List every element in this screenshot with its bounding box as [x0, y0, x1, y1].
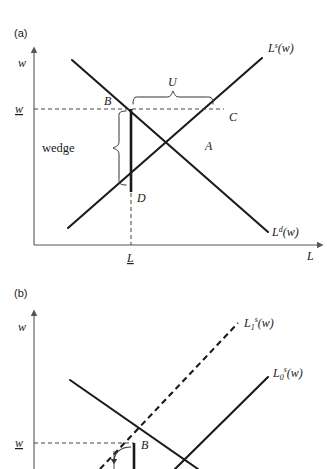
economics-labor-market-figure: (a)	[0, 0, 327, 469]
wage-floor-tick-label-b: w	[15, 436, 23, 450]
point-A-label-a: A	[204, 139, 213, 153]
panel-b: (b)	[0, 265, 327, 469]
point-B-label-a: B	[104, 94, 112, 108]
panel-a-plot: Ls(w) Ld(w) w L w L B C A D U wedge	[0, 0, 327, 265]
supply-shift-arrow	[114, 447, 131, 462]
panel-a-x-axis-label: L	[306, 249, 314, 263]
panel-b-plot: B L1s(w) L0s(w) w w	[0, 265, 327, 469]
labor-supply-1-label: L1s(w)	[243, 315, 274, 332]
panel-a-y-axis-label: w	[18, 56, 26, 70]
wedge-brace	[113, 111, 126, 185]
panel-a: (a)	[0, 0, 327, 265]
panel-b-y-axis-label: w	[18, 320, 26, 334]
labor-demand-label-a: Ld(w)	[271, 225, 299, 239]
unemployment-label: U	[168, 75, 178, 89]
labor-supply-0-curve	[175, 377, 268, 469]
wedge-label: wedge	[42, 141, 75, 155]
employment-tick-label: L	[126, 251, 134, 265]
point-D-label-a: D	[136, 191, 146, 205]
labor-supply-label-a: Ls(w)	[267, 41, 294, 55]
point-C-label-a: C	[229, 110, 238, 124]
labor-supply-0-label: L0s(w)	[272, 365, 303, 382]
point-B-label-b: B	[141, 438, 149, 452]
unemployment-brace	[133, 91, 213, 104]
wage-floor-tick-label: w	[15, 102, 23, 116]
labor-supply-1-curve	[100, 323, 238, 469]
